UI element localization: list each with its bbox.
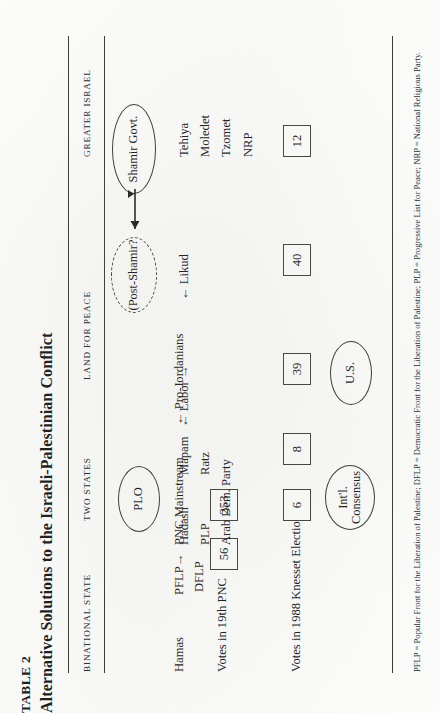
ellipse-post-shamir-label: (Post-Shamir?	[127, 240, 140, 311]
ellipse-intl-consensus: Int'l. Consensus	[325, 465, 375, 530]
entry-hamas: Hamas	[172, 637, 187, 672]
page-title: Alternative Solutions to the Israeli-Pal…	[38, 0, 56, 713]
ellipse-shamir-govt: Shamir Govt.	[112, 104, 156, 194]
arrow-shamir-to-post-shamir-icon	[126, 185, 144, 241]
entry-hadash: Hadash	[177, 507, 192, 545]
ellipse-us-label: U.S.	[344, 362, 357, 384]
ellipse-intl-consensus-line1: Int'l.	[337, 486, 350, 509]
ellipse-plo: PLO	[118, 466, 160, 532]
ellipse-shamir-govt-label: Shamir Govt.	[127, 116, 140, 183]
ellipse-plo-label: PLO	[132, 487, 145, 510]
entry-pflp: PFLP→	[172, 554, 187, 595]
entry-nrp: NRP	[241, 133, 256, 158]
column-header-land-for-peace: LAND FOR PEACE	[82, 291, 92, 380]
entry-tehiya: Tehiya	[177, 123, 192, 157]
vote-box-knesset-8: 8	[283, 433, 311, 465]
row-label-votes-1988-knesset: Votes in 1988 Knesset Elections	[289, 510, 304, 672]
column-header-greater-israel: GREATER ISRAEL	[82, 69, 92, 157]
row-label-votes-19th-pnc: Votes in 19th PNC	[215, 578, 230, 672]
rule-top	[68, 36, 69, 673]
entry-moledet: Moledet	[198, 115, 213, 157]
vote-box-knesset-12: 12	[283, 125, 311, 157]
column-header-binational-state: BINATIONAL STATE	[82, 574, 92, 672]
entry-arab-dem-party: Arab Dem. Party	[219, 459, 234, 545]
entry-ratz: Ratz	[198, 452, 213, 475]
vote-box-knesset-40: 40	[283, 244, 311, 276]
entry-dflp: DFLP	[192, 561, 207, 592]
rule-under-headers	[104, 36, 105, 673]
entry-plp: PLP	[198, 523, 213, 545]
ellipse-post-shamir: (Post-Shamir?	[111, 237, 157, 313]
column-header-two-states: TWO STATES	[82, 457, 92, 521]
rule-above-footnote	[392, 36, 393, 673]
rotated-page-wrapper: TABLE 2 Alternative Solutions to the Isr…	[0, 0, 440, 713]
entry-mapam: Mapam	[177, 437, 192, 475]
ellipse-us: U.S.	[330, 341, 372, 405]
entry-tzomet: Tzomet	[219, 119, 234, 157]
vote-box-knesset-6: 6	[283, 489, 311, 521]
table-number: TABLE 2	[18, 0, 34, 713]
footnote-abbreviations: PFLP = Popular Front for the Liberation …	[412, 30, 422, 672]
entry-labor: ← Labor →	[177, 365, 192, 427]
entry-likud: ← Likud	[177, 254, 192, 300]
ellipse-intl-consensus-line2: Consensus	[350, 471, 363, 524]
scanned-table-page: TABLE 2 Alternative Solutions to the Isr…	[0, 0, 440, 713]
vote-box-knesset-39: 39	[283, 353, 311, 385]
